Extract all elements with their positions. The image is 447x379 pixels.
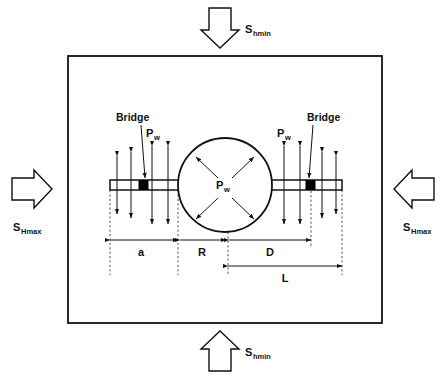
fracture-channel-left bbox=[110, 180, 182, 190]
left-arrow-icon bbox=[394, 170, 434, 208]
stress-bottom-subscript: hmin bbox=[253, 352, 271, 361]
stress-arrow-top bbox=[201, 8, 239, 48]
bridge-block-right bbox=[306, 181, 315, 190]
bridge-label-right: Bridge bbox=[307, 111, 340, 123]
figure-canvas: S hmin S hmin S Hmax S Hmax bbox=[0, 0, 447, 379]
up-arrow-icon bbox=[201, 331, 239, 371]
fracture-channel-right bbox=[268, 180, 342, 190]
stress-left-subscript: Hmax bbox=[21, 227, 42, 236]
fracture-right-pressure-subscript: w bbox=[284, 133, 291, 142]
stress-arrow-bottom bbox=[201, 331, 239, 371]
bridge-block-left bbox=[139, 181, 148, 190]
fracture-right-pressure-symbol: P bbox=[277, 127, 284, 139]
diagram-svg: S hmin S hmin S Hmax S Hmax bbox=[0, 0, 447, 379]
bridge-label-left: Bridge bbox=[116, 111, 149, 123]
stress-right-subscript: Hmax bbox=[411, 227, 432, 236]
stress-left-symbol: S bbox=[13, 221, 20, 233]
stress-top-subscript: hmin bbox=[253, 29, 271, 38]
fracture-left-pressure-symbol: P bbox=[146, 127, 153, 139]
stress-top-symbol: S bbox=[245, 23, 252, 35]
stress-arrow-left bbox=[12, 170, 52, 208]
dimension-label-d: D bbox=[266, 246, 274, 258]
right-arrow-icon bbox=[12, 170, 52, 208]
dimension-label-l: L bbox=[282, 272, 289, 284]
fracture-left-pressure-subscript: w bbox=[153, 133, 160, 142]
wellbore-pressure-subscript: w bbox=[223, 185, 230, 194]
dimension-label-a: a bbox=[138, 246, 145, 258]
down-arrow-icon bbox=[201, 8, 239, 48]
stress-arrow-right bbox=[394, 170, 434, 208]
fracture-channel-right-body bbox=[268, 180, 342, 190]
stress-right-symbol: S bbox=[403, 221, 410, 233]
dimension-label-r: R bbox=[198, 246, 206, 258]
wellbore-pressure-symbol: P bbox=[216, 179, 223, 191]
stress-bottom-symbol: S bbox=[245, 346, 252, 358]
